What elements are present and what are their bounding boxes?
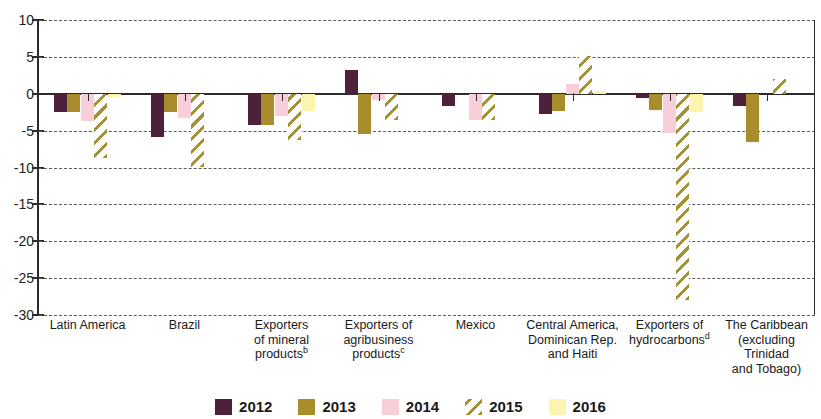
x-tick-mark [282, 93, 284, 101]
bar-2015-4 [385, 94, 398, 121]
y-tick-label: -10 [0, 161, 34, 175]
bar-2012-5 [442, 94, 455, 107]
bar-2012-8 [733, 94, 746, 107]
bar-2016-6 [593, 91, 606, 94]
gridline [39, 278, 815, 279]
x-category-label-1: Latin America [33, 318, 142, 333]
x-category-label-line: Brazil [130, 318, 239, 333]
gridline [39, 241, 815, 242]
x-category-label-line: productsc [324, 347, 433, 362]
legend-item-2015[interactable]: 2015 [465, 399, 522, 415]
legend-label: 2013 [322, 399, 355, 415]
x-category-label-line: (excluding [712, 333, 821, 348]
x-tick-mark [767, 93, 769, 101]
legend-item-2013[interactable]: 2013 [298, 399, 355, 415]
bar-2013-7 [649, 94, 662, 110]
y-tick-label: -15 [0, 197, 34, 211]
x-tick-mark [88, 93, 90, 101]
x-category-label-line: hydrocarbonsd [615, 333, 724, 348]
bar-2015-7 [676, 94, 689, 301]
y-tick-label: -20 [0, 234, 34, 248]
x-category-label-3: Exportersof mineralproductsb [227, 318, 336, 362]
x-category-label-line: The Caribbean [712, 318, 821, 333]
x-category-label-line: Exporters [227, 318, 336, 333]
x-tick-mark [670, 93, 672, 101]
legend-label: 2015 [489, 399, 522, 415]
bar-2013-3 [261, 94, 274, 126]
gridline [39, 57, 815, 58]
legend-swatch-2015 [465, 399, 482, 415]
legend-swatch-2016 [549, 399, 566, 415]
x-category-label-line: productsb [227, 347, 336, 362]
y-tick-label: 5 [0, 50, 34, 64]
y-tick-label: -30 [0, 308, 34, 322]
x-category-label-line: Central America, [518, 318, 627, 333]
x-tick-mark [573, 93, 575, 101]
x-tick-mark [379, 93, 381, 101]
bar-2012-7 [636, 94, 649, 98]
bar-2015-3 [288, 94, 301, 140]
legend-item-2012[interactable]: 2012 [215, 399, 272, 415]
category-footnote-marker: c [400, 345, 405, 355]
x-category-label-7: Exporters ofhydrocarbonsd [615, 318, 724, 347]
y-tick-label: -25 [0, 271, 34, 285]
x-category-label-line: Mexico [421, 318, 530, 333]
x-category-label-8: The Caribbean(excludingTrinidadand Tobag… [712, 318, 821, 376]
bar-2015-8 [773, 79, 786, 94]
x-category-label-5: Mexico [421, 318, 530, 333]
bar-2013-4 [358, 94, 371, 135]
y-tick-label: 10 [0, 13, 34, 27]
gridline [39, 204, 815, 205]
bar-2015-6 [579, 56, 592, 94]
plot-area [39, 20, 815, 315]
bar-2015-5 [482, 94, 495, 120]
x-tick-mark [476, 93, 478, 101]
x-axis-category-labels: Latin AmericaBrazilExportersof mineralpr… [39, 318, 815, 392]
x-tick-mark [185, 93, 187, 101]
category-footnote-marker: d [705, 330, 710, 340]
bar-2013-2 [164, 94, 177, 112]
bar-2016-7 [690, 94, 703, 112]
x-category-label-line: agribusiness [324, 333, 433, 348]
x-category-label-6: Central America,Dominican Rep.and Haiti [518, 318, 627, 362]
chart-legend: 20122013201420152016 [0, 394, 821, 419]
legend-label: 2016 [573, 399, 606, 415]
plot-right-border [814, 20, 816, 315]
bar-2012-3 [248, 94, 261, 126]
gridline [39, 20, 815, 21]
x-category-label-line: Exporters of [324, 318, 433, 333]
x-category-label-line: and Haiti [518, 347, 627, 362]
x-category-label-4: Exporters ofagribusinessproductsc [324, 318, 433, 362]
legend-swatch-2012 [215, 399, 232, 415]
bar-2016-1 [108, 94, 121, 97]
bar-2012-4 [345, 70, 358, 94]
legend-item-2014[interactable]: 2014 [382, 399, 439, 415]
y-axis-tick-labels: 1050-5-10-15-20-25-30 [0, 0, 34, 320]
category-footnote-marker: b [303, 345, 308, 355]
bar-2012-2 [151, 94, 164, 137]
legend-item-2016[interactable]: 2016 [549, 399, 606, 415]
x-category-label-line: and Tobago) [712, 362, 821, 377]
bar-2012-1 [54, 94, 67, 112]
legend-label: 2012 [239, 399, 272, 415]
gridline [39, 168, 815, 169]
bar-2015-1 [94, 94, 107, 158]
legend-swatch-2014 [382, 399, 399, 415]
x-category-label-line: of mineral [227, 333, 336, 348]
bar-2013-8 [746, 94, 759, 142]
y-tick-label: 0 [0, 87, 34, 101]
x-category-label-line: Latin America [33, 318, 142, 333]
x-category-label-line: Dominican Rep. [518, 333, 627, 348]
legend-label: 2014 [406, 399, 439, 415]
legend-swatch-2013 [298, 399, 315, 415]
bar-2016-3 [302, 94, 315, 111]
gridline [39, 315, 815, 316]
x-category-label-line: Trinidad [712, 347, 821, 362]
bar-2013-1 [67, 94, 80, 112]
grouped-bar-chart: 1050-5-10-15-20-25-30 Latin AmericaBrazi… [0, 0, 821, 419]
x-category-label-2: Brazil [130, 318, 239, 333]
bar-2012-6 [539, 94, 552, 115]
bar-2013-6 [552, 94, 565, 111]
bar-2015-2 [191, 94, 204, 167]
y-tick-label: -5 [0, 124, 34, 138]
